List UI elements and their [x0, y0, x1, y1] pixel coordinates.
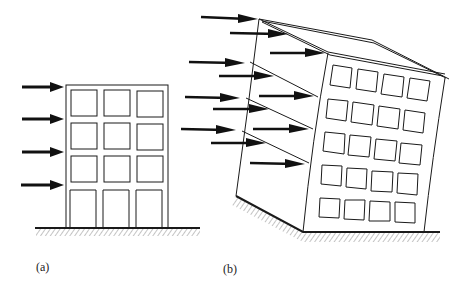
- arrow-icon: [219, 71, 274, 80]
- diagram-canvas: [0, 0, 466, 293]
- arrow-icon: [189, 58, 245, 67]
- panel-b-load-arrows: [181, 14, 325, 168]
- arrow-icon: [211, 138, 266, 147]
- arrow-icon: [21, 180, 64, 190]
- panel-label-a: (a): [36, 260, 49, 275]
- windows-b: [319, 65, 430, 223]
- panel-label-b: (b): [223, 262, 237, 277]
- arrow-icon: [213, 104, 269, 113]
- arrow-icon: [22, 147, 64, 157]
- arrow-icon: [201, 14, 258, 23]
- arrow-icon: [185, 93, 240, 102]
- arrow-icon: [22, 114, 64, 124]
- arrow-icon: [253, 124, 309, 133]
- arrow-icon: [250, 159, 305, 168]
- panel-a-load-arrows: [21, 82, 64, 190]
- panel-a-building: [35, 85, 200, 236]
- ground-hatch-a: [36, 228, 200, 236]
- arrow-icon: [22, 82, 64, 92]
- arrow-icon: [181, 125, 236, 134]
- panel-b-building: [232, 19, 449, 242]
- arrow-icon: [270, 48, 325, 57]
- arrow-icon: [259, 91, 314, 100]
